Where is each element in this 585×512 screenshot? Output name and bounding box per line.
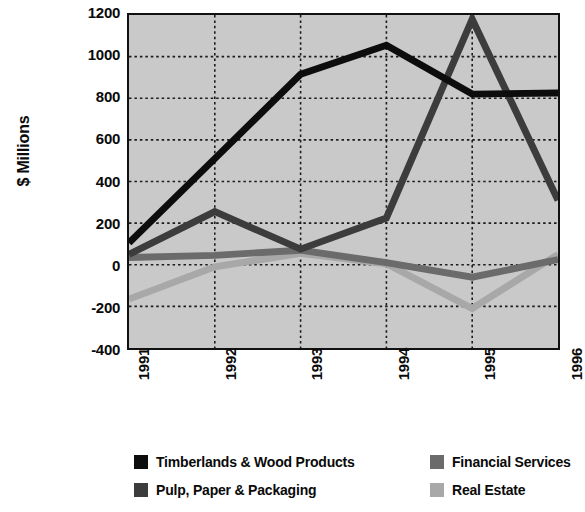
legend-item[interactable]: Timberlands & Wood Products	[134, 450, 355, 474]
legend-item-label: Timberlands & Wood Products	[156, 454, 355, 470]
y-axis-tick-label: 400	[58, 173, 120, 190]
x-axis-tick-label: 1996	[568, 348, 585, 418]
legend-swatch-icon	[134, 483, 148, 497]
series-line	[129, 45, 558, 243]
y-axis-tick-label: 200	[58, 215, 120, 232]
y-axis-tick-label: 1200	[58, 4, 120, 21]
legend-item[interactable]: Financial Services	[430, 450, 571, 474]
legend-item[interactable]: Real Estate	[430, 478, 525, 502]
y-axis-tick-label: -200	[58, 299, 120, 316]
chart-legend: Timberlands & Wood ProductsPulp, Paper &…	[134, 450, 564, 506]
legend-swatch-icon	[430, 455, 444, 469]
y-axis-tick-label: 1000	[58, 46, 120, 63]
x-axis-tick-label: 1992	[222, 348, 239, 418]
legend-item[interactable]: Pulp, Paper & Packaging	[134, 478, 316, 502]
y-axis-tick-label: 0	[58, 257, 120, 274]
legend-item-label: Financial Services	[452, 454, 571, 470]
legend-item-label: Real Estate	[452, 482, 525, 498]
series-line	[129, 253, 558, 308]
legend-swatch-icon	[430, 483, 444, 497]
y-axis-tick-label: 600	[58, 130, 120, 147]
legend-swatch-icon	[134, 455, 148, 469]
plot-area	[127, 13, 560, 350]
x-axis-tick-labels: 199119921993199419951996	[127, 352, 560, 422]
legend-item-label: Pulp, Paper & Packaging	[156, 482, 316, 498]
y-axis-title: $ Millions	[15, 91, 33, 211]
y-axis-tick-labels: 120010008006004002000-200-400	[52, 0, 120, 512]
x-axis-tick-label: 1994	[395, 348, 412, 418]
x-axis-tick-label: 1991	[135, 348, 152, 418]
series-line	[129, 19, 558, 254]
plot-canvas	[129, 15, 558, 348]
y-axis-tick-label: -400	[58, 341, 120, 358]
x-axis-tick-label: 1993	[308, 348, 325, 418]
x-axis-tick-label: 1995	[481, 348, 498, 418]
y-axis-tick-label: 800	[58, 88, 120, 105]
